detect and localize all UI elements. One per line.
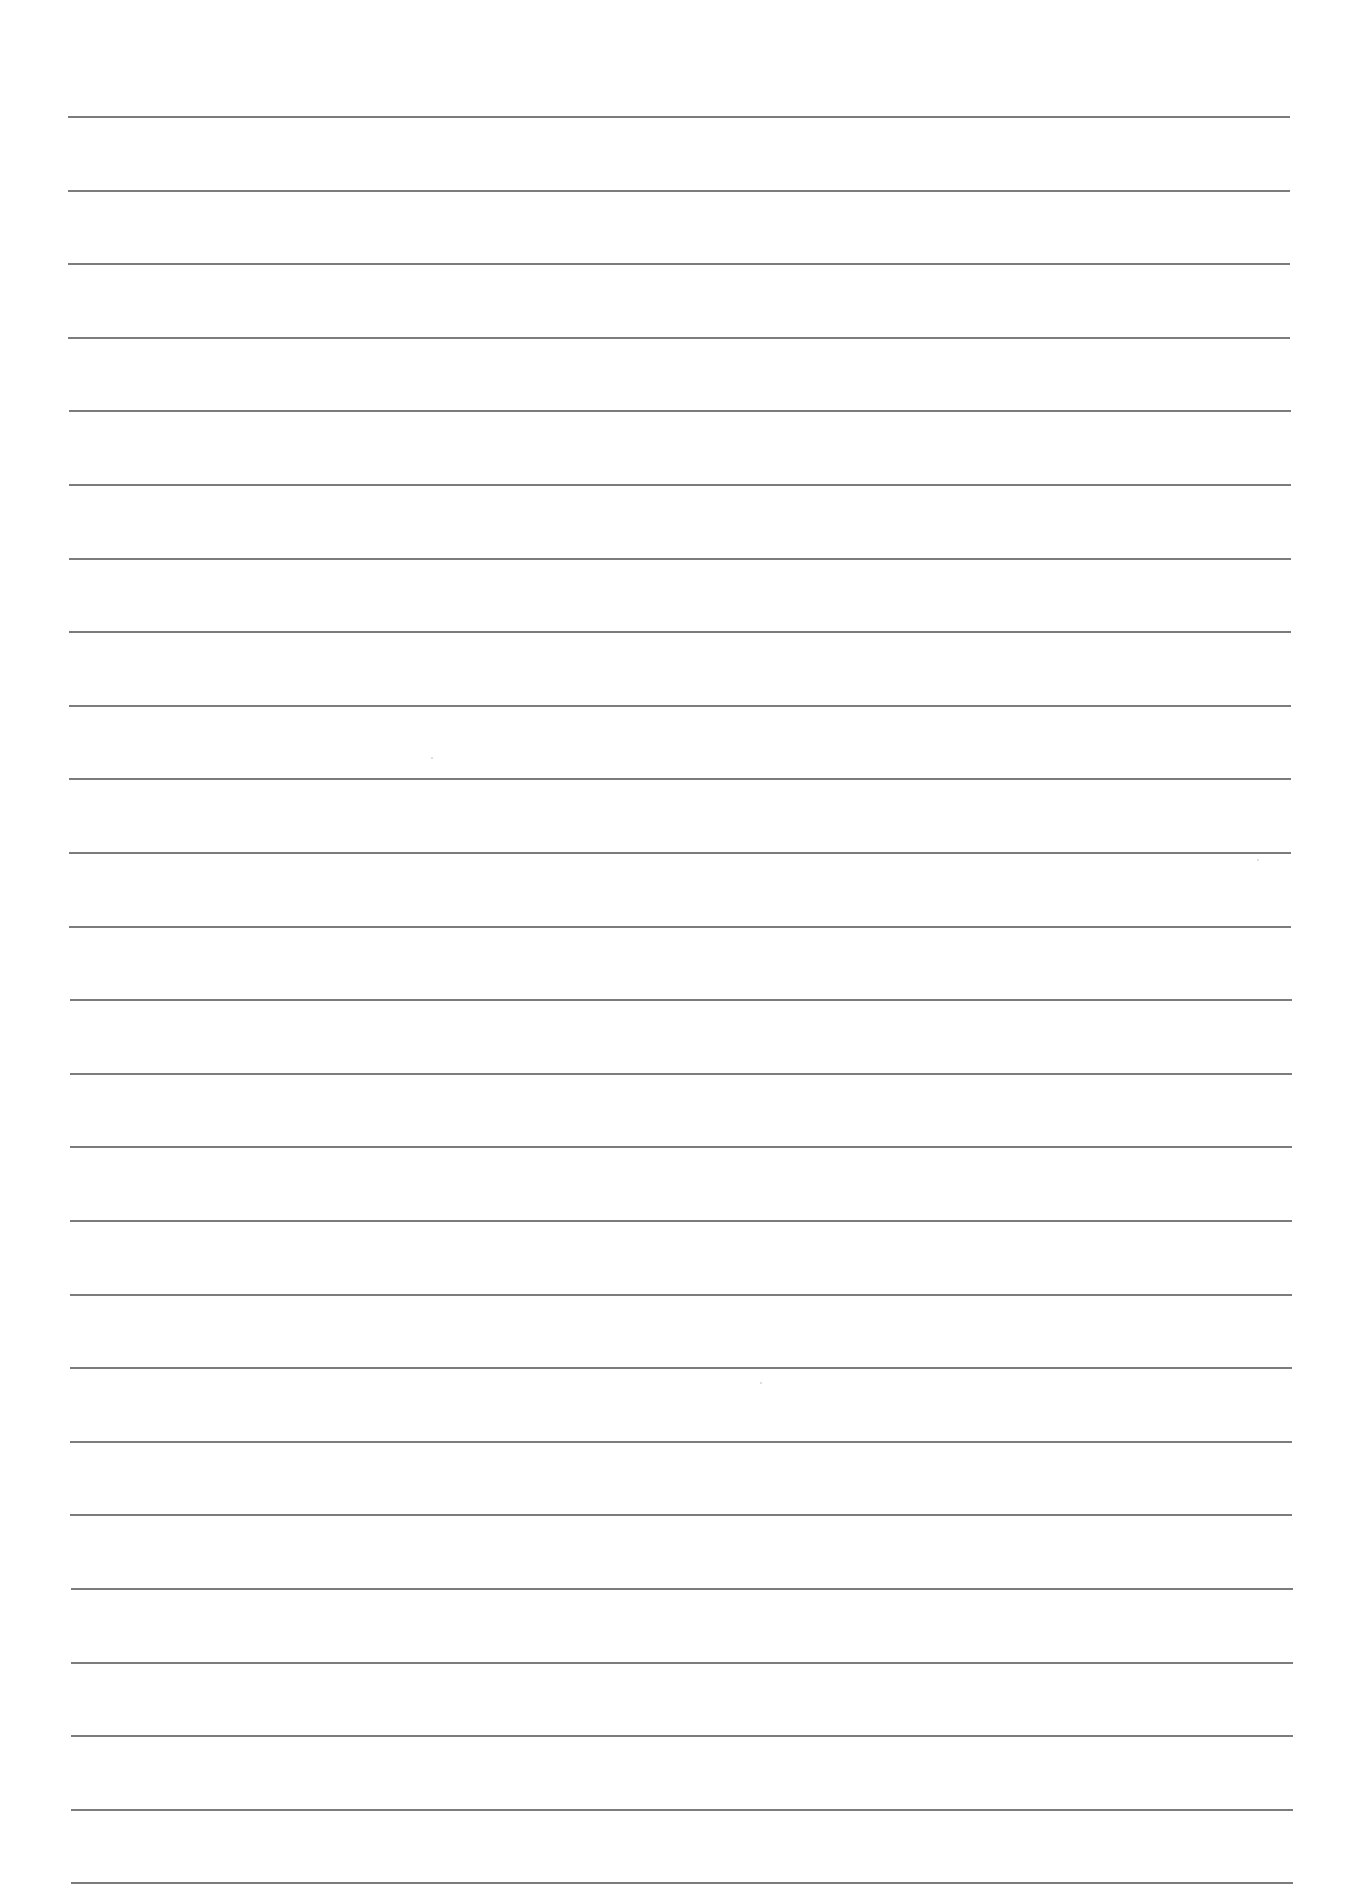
ruled-line <box>69 631 1291 633</box>
ruled-line <box>68 263 1290 265</box>
ruled-line <box>71 1809 1293 1811</box>
ruled-line <box>69 558 1291 560</box>
ruled-line <box>70 1073 1292 1075</box>
ruled-line <box>69 778 1291 780</box>
ruled-line <box>70 1514 1292 1516</box>
ruled-line <box>69 484 1291 486</box>
ruled-line <box>71 1588 1293 1590</box>
ruled-line <box>69 852 1291 854</box>
ruled-line <box>70 1220 1292 1222</box>
ruled-line <box>69 926 1291 928</box>
ruled-line <box>70 1367 1292 1369</box>
ruled-line <box>68 116 1290 118</box>
lined-paper-page <box>0 0 1345 1889</box>
ruled-line <box>70 1146 1292 1148</box>
ruled-line <box>71 1662 1293 1664</box>
ruled-line <box>71 1882 1293 1884</box>
ruled-line <box>70 1441 1292 1443</box>
ruled-line <box>69 705 1291 707</box>
ruled-line <box>68 337 1290 339</box>
ruled-line <box>70 999 1292 1001</box>
scan-speck <box>1257 859 1259 861</box>
ruled-line <box>69 410 1291 412</box>
scan-speck <box>760 1382 762 1384</box>
ruled-line <box>68 190 1290 192</box>
ruled-line <box>71 1735 1293 1737</box>
ruled-line <box>70 1294 1292 1296</box>
scan-speck <box>431 757 433 759</box>
